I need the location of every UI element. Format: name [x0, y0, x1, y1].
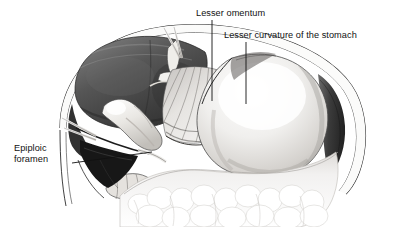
label-epiploic-foramen: Epiploic foramen [14, 143, 76, 164]
label-lesser-curvature-of-the-stomach: Lesser curvature of the stomach [224, 30, 357, 41]
label-lesser-omentum: Lesser omentum [196, 8, 265, 19]
label-epiploic-foramen-line2: foramen [14, 154, 76, 165]
label-epiploic-foramen-line1: Epiploic [14, 143, 76, 154]
illustration-canvas: Lesser omentum Lesser curvature of the s… [0, 0, 399, 227]
